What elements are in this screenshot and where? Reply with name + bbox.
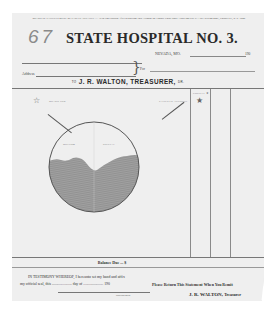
ledger-bottom-rule — [12, 257, 264, 258]
for-line — [150, 71, 255, 72]
ledger-left-caption: BOARD FOR — [49, 100, 66, 103]
payment-notice: BOARD OF PATIENTS MUST BE PAID IN ADVANC… — [20, 17, 258, 20]
address-line — [36, 76, 136, 77]
testimony-line-1: IN TESTIMONY WHEREOF, I hereunto set my … — [28, 275, 125, 279]
for-label: For — [140, 67, 145, 71]
signatory: J. R. WALTON, Treasurer — [189, 292, 241, 297]
treasurer-heading: TO J. R. WALTON, TREASURER, DR. — [12, 78, 244, 85]
treasurer-suffix: DR. — [178, 80, 184, 84]
circle-label-right: SPECIAL — [103, 143, 115, 146]
location-label: NEVADA, MO. — [155, 51, 181, 56]
column-rule-3 — [230, 89, 231, 257]
signatory-title: Treasurer — [224, 292, 241, 297]
star-outline-icon: ☆ — [33, 97, 40, 105]
treasurer-prefix: TO — [72, 80, 77, 84]
return-note: Please Return This Statement When You Re… — [152, 282, 233, 287]
column-rule-2 — [210, 89, 211, 257]
handwritten-number: 67 — [28, 26, 55, 48]
column-rule-1 — [190, 89, 191, 257]
footer-rule — [12, 267, 264, 268]
circle-sketch-icon — [47, 120, 141, 214]
year-prefix: 190 — [245, 52, 250, 56]
balance-due-label: Balance Due ... $ — [12, 260, 212, 265]
ledger-column-caption: COUNTY ★ — [193, 92, 209, 95]
pencil-circle-drawing: BOTTOM SPECIAL — [47, 120, 141, 214]
name-line — [22, 63, 142, 64]
date-line — [190, 56, 246, 57]
signature-caption: Superintendent — [116, 294, 130, 297]
star-filled-icon: ★ — [196, 97, 203, 105]
testimony-line-2: my official seal, this .................… — [20, 282, 110, 286]
form-title: STATE HOSPITAL NO. 3. — [66, 30, 238, 47]
signature-line — [58, 292, 150, 293]
hospital-statement-form: BOARD OF PATIENTS MUST BE PAID IN ADVANC… — [12, 13, 264, 301]
address-label: Address — [22, 72, 34, 76]
circle-label-left: BOTTOM — [63, 143, 75, 146]
signatory-name: J. R. WALTON, — [189, 292, 223, 297]
treasurer-name: J. R. WALTON, TREASURER, — [79, 78, 176, 85]
